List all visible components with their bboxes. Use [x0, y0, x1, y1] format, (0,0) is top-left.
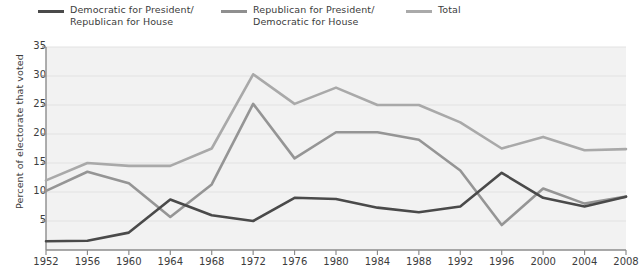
legend-item-republican-president-democratic-house: Republican for President/ Democratic for… [221, 4, 374, 27]
chart-canvas [0, 34, 632, 273]
legend-swatch-series-0 [38, 10, 64, 13]
plot-background [46, 47, 626, 250]
plot-area-wrapper: Percent of electorate that voted 5101520… [0, 34, 632, 273]
legend-swatch-series-2 [406, 10, 432, 13]
legend-swatch-series-1 [221, 10, 247, 13]
legend-item-democratic-president-republican-house: Democratic for President/ Republican for… [38, 4, 194, 27]
chart-legend: Democratic for President/ Republican for… [0, 0, 632, 34]
legend-item-total: Total [406, 4, 461, 16]
legend-label-series-0: Democratic for President/ Republican for… [70, 4, 194, 27]
legend-label-series-2: Total [438, 4, 461, 16]
legend-label-series-1: Republican for President/ Democratic for… [253, 4, 374, 27]
